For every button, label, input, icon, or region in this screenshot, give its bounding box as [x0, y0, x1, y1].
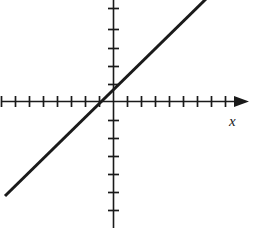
y-axis-group	[108, 0, 119, 228]
plotted-line-group	[5, 0, 206, 196]
coordinate-plane-svg: x	[0, 0, 260, 228]
linear-function-line	[5, 0, 206, 196]
x-axis-label: x	[228, 113, 236, 129]
x-axis-group	[1, 96, 249, 107]
graph-figure: x	[0, 0, 260, 228]
x-axis-arrow-icon	[234, 96, 249, 107]
